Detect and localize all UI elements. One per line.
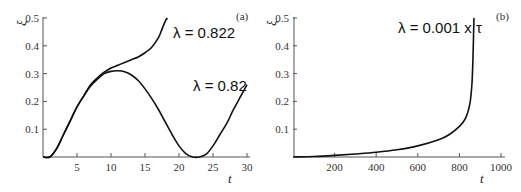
y-tick-label: 0.1 (275, 123, 289, 135)
y-tick-label: 0.1 (25, 123, 39, 135)
y-axis-label: ξ (14, 20, 29, 26)
panel-label: (b) (496, 10, 509, 23)
x-tick-label: 10 (106, 161, 118, 173)
annotation-lambda-0822: λ = 0.822 (173, 24, 235, 41)
y-tick-label: 0.3 (25, 68, 39, 80)
y-tick-label: 0.2 (25, 95, 39, 107)
x-tick-label: 600 (410, 161, 427, 173)
x-tick-label: 800 (451, 161, 468, 173)
series-lambda-ramp (293, 18, 474, 157)
x-tick-label: 1000 (490, 161, 513, 173)
y-tick-label: 0.4 (25, 40, 39, 52)
x-tick-label: 400 (368, 161, 385, 173)
annotation-lambda-ramp: λ = 0.001 x τ (398, 19, 482, 36)
panel-b: 20040060080010000.10.20.30.40.5 (b) λ = … (264, 10, 513, 186)
x-tick-label: 200 (326, 161, 343, 173)
x-tick-label: 25 (208, 161, 220, 173)
y-axis-label: ξ (264, 20, 279, 26)
y-tick-label: 0.2 (275, 95, 289, 107)
figure: 510152025300.10.20.30.40.5 (a) λ = 0.822… (0, 0, 521, 192)
annotation-lambda-082: λ = 0.82 (193, 77, 247, 94)
y-tick-label: 0.4 (275, 40, 289, 52)
panel-a: 510152025300.10.20.30.40.5 (a) λ = 0.822… (14, 10, 253, 186)
x-axis-label: t (480, 171, 484, 186)
x-axis-label: t (228, 171, 232, 186)
x-tick-label: 15 (140, 161, 152, 173)
panel-label: (a) (236, 10, 249, 23)
x-tick-label: 20 (174, 161, 186, 173)
x-tick-label: 30 (242, 161, 254, 173)
x-tick-label: 5 (74, 161, 80, 173)
y-tick-label: 0.3 (275, 68, 289, 80)
